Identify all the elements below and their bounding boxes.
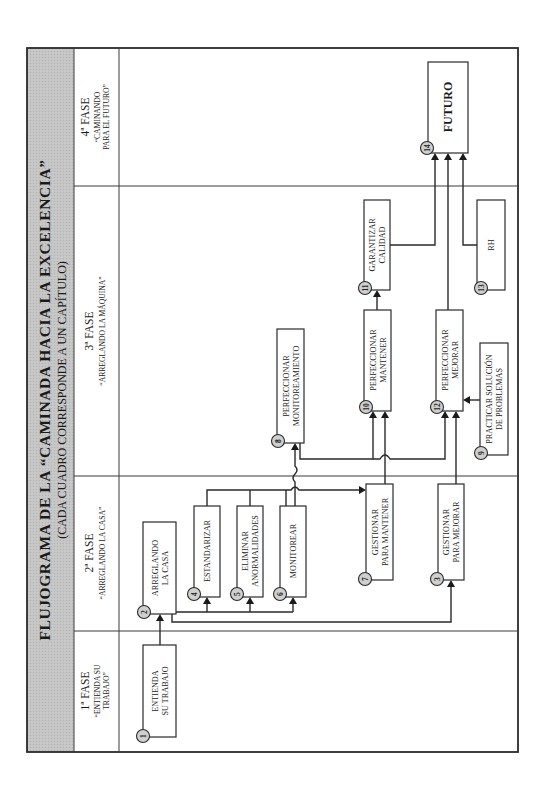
svg-text:10: 10: [362, 403, 371, 411]
svg-text:12: 12: [433, 403, 442, 411]
svg-text:ANORMALIDADES: ANORMALIDADES: [251, 515, 260, 587]
step-box-11-garantizar-calidad: GARANTIZAR CALIDAD 11: [359, 200, 391, 295]
svg-text:“ARREGLANDO LA MÁQUINA”: “ARREGLANDO LA MÁQUINA”: [97, 276, 107, 385]
phase-label-1: 1ª FASE “ENTIENDA SU TRABAJO”: [79, 664, 111, 717]
diagram-title: FLUJOGRAMA DE LA “CAMINADA HACIA LA EXCE…: [36, 159, 53, 640]
svg-text:PERFECCIONAR: PERFECCIONAR: [369, 329, 378, 391]
svg-text:PARA MEJORAR: PARA MEJORAR: [452, 501, 461, 562]
flowchart-diagram: FLUJOGRAMA DE LA “CAMINADA HACIA LA EXCE…: [0, 0, 547, 812]
phase-label-2: 2ª FASE “ARREGLANDO LA CASA”: [83, 507, 107, 600]
step-box-6-monitorear: MONITOREAR 6: [274, 506, 307, 601]
step-box-12-perfeccionar-mejorar: PERFECCIONAR MEJORAR 12: [431, 310, 464, 414]
diagram-subtitle: (CADA CUADRO CORRESPONDE A UN CAPÍTULO): [55, 261, 69, 539]
svg-text:ENTIENDA: ENTIENDA: [151, 670, 160, 711]
svg-text:DE PROBLEMAS: DE PROBLEMAS: [495, 368, 504, 431]
svg-text:3: 3: [433, 577, 442, 581]
svg-text:FUTURO: FUTURO: [441, 82, 455, 133]
svg-text:14: 14: [423, 144, 432, 152]
svg-text:ELIMINAR: ELIMINAR: [241, 530, 250, 571]
svg-text:9: 9: [477, 451, 486, 455]
svg-text:PRACTICAR SOLUCIÓN: PRACTICAR SOLUCIÓN: [484, 354, 494, 443]
step-box-7-gestionar-para-mantener: GESTIONAR PARA MANTENER 7: [359, 484, 394, 586]
svg-text:PERFECCIONAR: PERFECCIONAR: [441, 329, 450, 391]
svg-text:6: 6: [276, 592, 285, 596]
step-box-10-perfeccionar-mantener: PERFECCIONAR MANTENER 10: [360, 310, 392, 414]
svg-text:5: 5: [233, 592, 242, 596]
step-box-3-gestionar-para-mejorar: GESTIONAR PARA MEJORAR 3: [431, 484, 465, 586]
svg-text:MONITOREAMIENTO: MONITOREAMIENTO: [292, 346, 301, 427]
svg-text:MANTENER: MANTENER: [379, 337, 388, 383]
svg-text:2: 2: [140, 610, 149, 614]
step-box-9-practicar-solucion-de-problemas: PRACTICAR SOLUCIÓN DE PROBLEMAS 9: [475, 343, 509, 460]
svg-text:PERFECCIONAR: PERFECCIONAR: [282, 355, 291, 417]
svg-text:8: 8: [274, 439, 283, 443]
svg-text:“CAMINANDO: “CAMINANDO: [93, 91, 102, 142]
svg-text:“ARREGLANDO LA CASA”: “ARREGLANDO LA CASA”: [98, 507, 107, 600]
svg-text:MONITOREAR: MONITOREAR: [289, 523, 298, 578]
step-box-4-estandarizar: ESTANDARIZAR 4: [188, 506, 221, 601]
svg-text:11: 11: [361, 284, 370, 291]
step-box-2-arreglando-la-casa: ARREGLANDO LA CASA 2: [138, 522, 177, 619]
step-box-5-eliminar-anormalidades: ELIMINAR ANORMALIDADES 5: [231, 506, 264, 601]
svg-text:1ª FASE: 1ª FASE: [79, 671, 91, 710]
svg-text:4ª FASE: 4ª FASE: [79, 97, 91, 136]
step-box-1-entienda-su-trabajo: ENTIENDA SU TRABAJO 1: [137, 645, 177, 743]
svg-text:13: 13: [477, 284, 486, 292]
svg-text:MEJORAR: MEJORAR: [451, 340, 460, 379]
svg-text:3ª FASE: 3ª FASE: [83, 311, 95, 350]
svg-text:TRABAJO”: TRABAJO”: [102, 672, 111, 710]
svg-text:CALIDAD: CALIDAD: [378, 226, 387, 263]
svg-text:2ª FASE: 2ª FASE: [83, 533, 95, 572]
svg-text:“ENTIENDA SU: “ENTIENDA SU: [93, 664, 102, 717]
svg-text:RH: RH: [487, 239, 496, 250]
svg-text:GESTIONAR: GESTIONAR: [442, 508, 451, 555]
svg-text:GESTIONAR: GESTIONAR: [371, 508, 380, 555]
svg-text:7: 7: [361, 577, 370, 581]
step-box-13-rh: RH 13: [475, 200, 506, 295]
phase-label-4: 4ª FASE “CAMINANDO PARA EL FUTURO”: [79, 84, 111, 150]
step-box-14-futuro: FUTURO 14: [421, 62, 469, 155]
svg-text:1: 1: [139, 734, 148, 738]
svg-text:PARA MANTENER: PARA MANTENER: [381, 497, 390, 566]
svg-text:GARANTIZAR: GARANTIZAR: [368, 218, 377, 272]
phase-label-3: 3ª FASE “ARREGLANDO LA MÁQUINA”: [83, 276, 107, 385]
svg-text:ARREGLANDO: ARREGLANDO: [151, 540, 160, 596]
svg-text:ESTANDARIZAR: ESTANDARIZAR: [203, 519, 212, 582]
svg-text:SU TRABAJO: SU TRABAJO: [161, 666, 170, 715]
svg-text:PARA EL FUTURO”: PARA EL FUTURO”: [102, 84, 111, 150]
svg-text:4: 4: [190, 592, 199, 596]
step-box-8-perfeccionar-monitoreamiento: PERFECCIONAR MONITOREAMIENTO 8: [272, 329, 305, 448]
svg-text:LA CASA: LA CASA: [161, 551, 170, 585]
